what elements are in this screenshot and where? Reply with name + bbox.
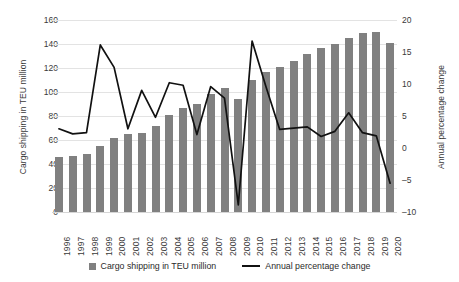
x-axis-tick: 2011: [269, 237, 279, 256]
y-axis-right-tick: 15: [402, 48, 442, 57]
x-axis-tick: 2004: [173, 237, 183, 256]
x-axis-tick: 2000: [117, 237, 127, 256]
x-axis-tick: 1996: [62, 237, 72, 256]
x-axis-tick: 2019: [380, 237, 390, 256]
x-axis-tick: 1998: [90, 237, 100, 256]
y-axis-right-tick: 20: [402, 16, 442, 25]
x-axis-tick: 2007: [214, 237, 224, 256]
x-axis-tick: 2017: [352, 237, 362, 256]
annual-change-polyline: [59, 41, 390, 205]
legend-label-annual-change: Annual percentage change: [265, 261, 370, 271]
y-axis-right-tick: 5: [402, 112, 442, 121]
plot-area: [52, 20, 397, 212]
line-series: [52, 20, 397, 212]
x-axis-tick: 2016: [338, 237, 348, 256]
x-axis-tick: 2001: [131, 237, 141, 256]
y-axis-right-tick: 0: [402, 144, 442, 153]
x-axis-tick: 2003: [159, 237, 169, 256]
x-axis-tick: 1997: [76, 237, 86, 256]
y-axis-right-tick: 10: [402, 80, 442, 89]
y-axis-right-tick: –5: [402, 176, 442, 185]
gridline: [52, 212, 397, 213]
line-swatch-icon: [242, 265, 260, 268]
x-axis-tick: 2010: [255, 237, 265, 256]
x-axis-tick: 2006: [200, 237, 210, 256]
chart-legend: Cargo shipping in TEU million Annual per…: [0, 261, 459, 271]
x-axis-tick: 2013: [297, 237, 307, 256]
x-axis-tick-labels: 1996199719981999200020012002200320042005…: [52, 214, 397, 260]
legend-item-cargo: Cargo shipping in TEU million: [89, 261, 217, 271]
x-axis-tick: 2018: [366, 237, 376, 256]
x-axis-tick: 2015: [324, 237, 334, 256]
x-axis-tick: 2008: [228, 237, 238, 256]
y-axis-right-tick: –10: [402, 208, 442, 217]
bar-swatch-icon: [89, 263, 96, 270]
x-axis-tick: 2009: [242, 237, 252, 256]
chart-container: Cargo shipping in TEU million Annual per…: [0, 0, 459, 282]
x-axis-tick: 2002: [145, 237, 155, 256]
legend-label-cargo: Cargo shipping in TEU million: [101, 261, 217, 271]
x-axis-tick: 2005: [186, 237, 196, 256]
x-axis-tick: 2012: [283, 237, 293, 256]
legend-item-annual-change: Annual percentage change: [242, 261, 370, 271]
x-axis-tick: 2020: [393, 237, 403, 256]
x-axis-tick: 1999: [104, 237, 114, 256]
x-axis-tick: 2014: [311, 237, 321, 256]
